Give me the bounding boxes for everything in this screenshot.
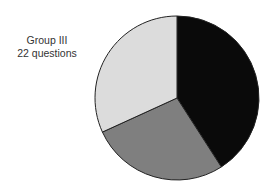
pie-slices — [95, 16, 259, 180]
pie-chart — [0, 0, 274, 187]
